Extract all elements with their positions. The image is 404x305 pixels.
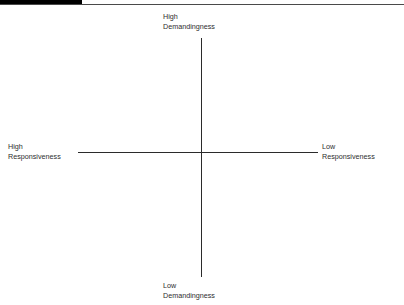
axis-label-high-demandingness-line1: High (163, 12, 215, 22)
header-strip (0, 0, 404, 6)
axis-label-high-demandingness: High Demandingness (163, 12, 215, 32)
axis-label-high-responsiveness-line2: Responsiveness (8, 152, 61, 162)
axis-label-high-responsiveness: High Responsiveness (8, 142, 61, 162)
axis-label-high-responsiveness-line1: High (8, 142, 61, 152)
header-rule (0, 4, 404, 5)
axis-label-low-demandingness-line2: Demandingness (163, 291, 215, 301)
axis-label-low-responsiveness-line1: Low (322, 142, 375, 152)
axis-label-low-responsiveness-line2: Responsiveness (322, 152, 375, 162)
diagram-page: High Demandingness Low Demandingness Hig… (0, 0, 404, 305)
vertical-axis (201, 38, 202, 277)
axis-label-low-demandingness: Low Demandingness (163, 281, 215, 301)
axis-label-low-responsiveness: Low Responsiveness (322, 142, 375, 162)
horizontal-axis (78, 152, 318, 153)
axis-label-low-demandingness-line1: Low (163, 281, 215, 291)
axis-label-high-demandingness-line2: Demandingness (163, 22, 215, 32)
